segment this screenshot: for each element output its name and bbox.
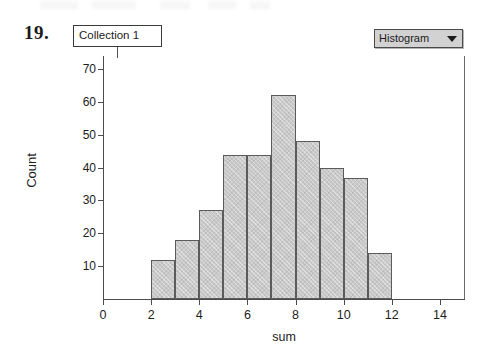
x-tick-label: 10 — [329, 308, 359, 322]
histogram-bar — [320, 168, 344, 299]
x-axis-title: sum — [103, 330, 465, 344]
x-tick-label: 6 — [232, 308, 262, 322]
x-tick-mark — [392, 299, 393, 305]
x-tick-label: 2 — [136, 308, 166, 322]
x-tick-mark — [440, 299, 441, 305]
histogram-bar — [344, 178, 368, 300]
x-tick-mark — [247, 299, 248, 305]
y-tick-label: 70 — [72, 62, 96, 76]
x-tick-mark — [344, 299, 345, 305]
y-tick-mark — [98, 233, 104, 234]
x-tick-label: 8 — [281, 308, 311, 322]
x-tick-mark — [151, 299, 152, 305]
histogram-chart: 10203040506070 02468101214 Count sum — [0, 0, 485, 364]
histogram-bar — [151, 260, 175, 299]
y-tick-label: 10 — [72, 259, 96, 273]
x-tick-label: 0 — [88, 308, 118, 322]
histogram-bar — [368, 253, 392, 299]
plot-right-border — [464, 56, 465, 299]
y-tick-mark — [98, 266, 104, 267]
y-tick-label: 50 — [72, 128, 96, 142]
y-axis-line — [103, 56, 104, 300]
histogram-bar — [223, 155, 247, 299]
x-tick-mark — [103, 299, 104, 305]
y-tick-mark — [98, 200, 104, 201]
y-tick-mark — [98, 69, 104, 70]
x-tick-mark — [199, 299, 200, 305]
y-tick-label: 60 — [72, 95, 96, 109]
x-tick-label: 14 — [425, 308, 455, 322]
histogram-bar — [175, 240, 199, 299]
y-tick-label: 20 — [72, 226, 96, 240]
y-tick-mark — [98, 102, 104, 103]
y-tick-label: 40 — [72, 161, 96, 175]
y-tick-label: 30 — [72, 193, 96, 207]
x-tick-mark — [296, 299, 297, 305]
y-tick-mark — [98, 168, 104, 169]
y-axis-title: Count — [24, 131, 39, 211]
histogram-bar — [247, 155, 271, 299]
x-tick-label: 4 — [184, 308, 214, 322]
y-tick-mark — [98, 135, 104, 136]
histogram-bar — [271, 95, 295, 299]
histogram-bar — [199, 210, 223, 299]
histogram-bar — [296, 141, 320, 299]
x-tick-label: 12 — [377, 308, 407, 322]
x-axis-line — [103, 299, 465, 300]
